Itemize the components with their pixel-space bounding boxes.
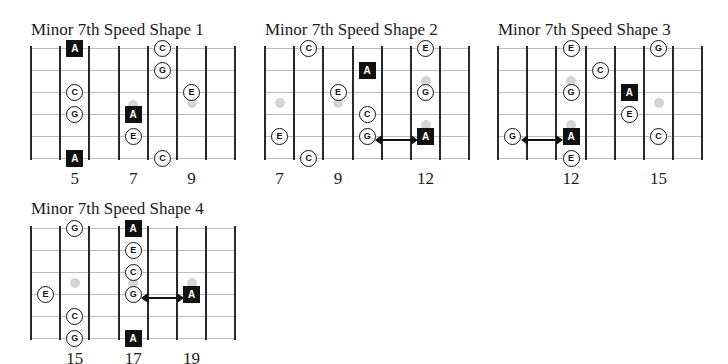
fret-line xyxy=(147,226,149,340)
fret-number-label: 12 xyxy=(563,169,580,189)
note-marker-g: G xyxy=(66,220,83,237)
fret-line xyxy=(59,46,61,160)
double-arrow-icon xyxy=(523,139,561,141)
fret-line xyxy=(234,226,236,340)
fret-line xyxy=(293,46,295,160)
fret-number-label: 15 xyxy=(650,169,667,189)
fret-line xyxy=(643,46,645,160)
note-marker-c: C xyxy=(154,150,171,167)
root-note-marker: A xyxy=(125,330,142,347)
fret-line xyxy=(264,46,266,160)
note-marker-e: E xyxy=(183,84,200,101)
fret-line xyxy=(147,46,149,160)
fret-number-label: 9 xyxy=(187,169,196,189)
fret-line xyxy=(88,46,90,160)
fret-number-label: 15 xyxy=(66,349,83,364)
root-note-marker: A xyxy=(125,106,142,123)
diagram-title: Minor 7th Speed Shape 3 xyxy=(498,20,671,40)
note-marker-g: G xyxy=(66,106,83,123)
fret-line xyxy=(322,46,324,160)
diagram-title: Minor 7th Speed Shape 1 xyxy=(31,20,204,40)
note-marker-g: G xyxy=(359,128,376,145)
note-marker-g: G xyxy=(563,84,580,101)
note-marker-g: G xyxy=(417,84,434,101)
inlay-dot xyxy=(654,98,664,108)
fret-line xyxy=(118,226,120,340)
note-marker-g: G xyxy=(154,62,171,79)
note-marker-e: E xyxy=(621,106,638,123)
fret-number-label: 7 xyxy=(129,169,138,189)
fret-number-label: 19 xyxy=(183,349,200,364)
note-marker-c: C xyxy=(66,308,83,325)
fret-line xyxy=(88,226,90,340)
fret-line xyxy=(352,46,354,160)
root-note-marker: A xyxy=(417,128,434,145)
double-arrow-icon xyxy=(143,297,181,299)
fret-line xyxy=(439,46,441,160)
inlay-dot xyxy=(70,278,80,288)
note-marker-c: C xyxy=(359,106,376,123)
note-marker-c: C xyxy=(300,150,317,167)
fret-number-label: 5 xyxy=(71,169,80,189)
note-marker-c: C xyxy=(154,40,171,57)
fret-line xyxy=(176,226,178,340)
note-marker-c: C xyxy=(300,40,317,57)
note-marker-c: C xyxy=(650,128,667,145)
fret-line xyxy=(468,46,470,160)
fret-number-label: 12 xyxy=(417,169,434,189)
fret-line xyxy=(59,226,61,340)
fret-line xyxy=(176,46,178,160)
diagram-title: Minor 7th Speed Shape 4 xyxy=(31,199,204,219)
root-note-marker: A xyxy=(621,84,638,101)
root-note-marker: A xyxy=(125,220,142,237)
diagram-title: Minor 7th Speed Shape 2 xyxy=(265,20,438,40)
root-note-marker: A xyxy=(359,62,376,79)
fret-line xyxy=(672,46,674,160)
note-marker-e: E xyxy=(271,128,288,145)
root-note-marker: A xyxy=(563,128,580,145)
note-marker-c: C xyxy=(592,62,609,79)
note-marker-e: E xyxy=(417,40,434,57)
fret-line xyxy=(701,46,703,160)
root-note-marker: A xyxy=(66,150,83,167)
note-marker-g: G xyxy=(504,128,521,145)
fret-number-label: 9 xyxy=(334,169,343,189)
fret-line xyxy=(614,46,616,160)
fret-line xyxy=(205,46,207,160)
fret-line xyxy=(205,226,207,340)
note-marker-g: G xyxy=(66,330,83,347)
note-marker-e: E xyxy=(125,242,142,259)
note-marker-e: E xyxy=(37,286,54,303)
fret-line xyxy=(585,46,587,160)
root-note-marker: A xyxy=(183,286,200,303)
note-marker-g: G xyxy=(650,40,667,57)
fret-number-label: 7 xyxy=(275,169,284,189)
fret-line xyxy=(497,46,499,160)
note-marker-e: E xyxy=(563,40,580,57)
fret-line xyxy=(30,226,32,340)
note-marker-c: C xyxy=(66,84,83,101)
note-marker-g: G xyxy=(125,286,142,303)
root-note-marker: A xyxy=(66,40,83,57)
note-marker-e: E xyxy=(125,128,142,145)
fret-line xyxy=(118,46,120,160)
note-marker-c: C xyxy=(125,264,142,281)
fret-line xyxy=(30,46,32,160)
inlay-dot xyxy=(275,98,285,108)
fret-line xyxy=(234,46,236,160)
fret-number-label: 17 xyxy=(125,349,142,364)
note-marker-e: E xyxy=(330,84,347,101)
double-arrow-icon xyxy=(377,139,415,141)
note-marker-e: E xyxy=(563,150,580,167)
